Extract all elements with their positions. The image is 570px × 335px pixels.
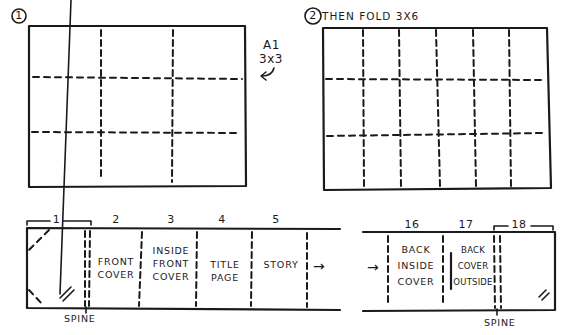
fold-count-label: 3x3 <box>259 52 283 66</box>
panel-17-text: BACK COVER OUTSIDE <box>452 242 494 290</box>
panel1-bracket <box>27 221 50 225</box>
panel-number-1: 1 <box>50 213 63 227</box>
panel-number-18: 18 <box>510 218 528 232</box>
spine-fold-right-b <box>500 236 501 308</box>
continue-arrow-right-icon: → <box>367 260 379 274</box>
panel-number-5: 5 <box>270 213 282 227</box>
sheet1-fold-h1 <box>33 77 242 79</box>
double-slash-mark <box>60 287 71 298</box>
sheet-size-label: A1 <box>263 38 280 52</box>
strip-left-fold-2 <box>139 232 142 306</box>
sheet2-fold-v1 <box>363 30 364 186</box>
panel-16-text: BACK INSIDE COVER <box>391 242 441 290</box>
panel-2-text: FRONT COVER <box>93 255 139 281</box>
step2-title: THEN FOLD 3X6 <box>322 9 419 23</box>
panel-number-2: 2 <box>110 213 122 227</box>
step2-number: 2 <box>307 9 319 23</box>
spine-fold-right-a <box>494 236 495 308</box>
sheet1-outline <box>29 26 246 187</box>
panel-number-16: 16 <box>403 218 421 232</box>
curved-arrow-icon <box>262 68 274 76</box>
sheet2-fold-v2 <box>399 30 401 186</box>
sheet2-fold-v3 <box>436 30 440 186</box>
panel-3-text: INSIDE FRONT COVER <box>146 244 196 283</box>
panel-5-text: STORY <box>256 258 306 271</box>
sheet1-fold-v2 <box>172 30 173 182</box>
spine-label-right: SPINE <box>484 316 516 329</box>
panel-4-text: TITLE PAGE <box>201 258 249 284</box>
continue-arrow-icon: → <box>313 259 325 273</box>
sheet1-fold-h2 <box>32 132 240 133</box>
sheet2-fold-v4 <box>473 30 476 186</box>
panel-number-4: 4 <box>216 213 228 227</box>
strip-left-fold-4 <box>251 232 252 306</box>
spine-label-left: SPINE <box>64 312 96 325</box>
spine-fold-left-b <box>89 231 90 306</box>
sheet2-fold-h1 <box>326 79 545 80</box>
panel-number-17: 17 <box>457 218 475 232</box>
panel18-bracket <box>494 226 508 230</box>
sheet2-fold-v5 <box>509 30 511 186</box>
strip-left-fold-3 <box>196 232 197 306</box>
sheet2-fold-h2 <box>327 133 545 136</box>
step1-number: 1 <box>13 9 25 23</box>
panel-number-3: 3 <box>165 213 177 227</box>
